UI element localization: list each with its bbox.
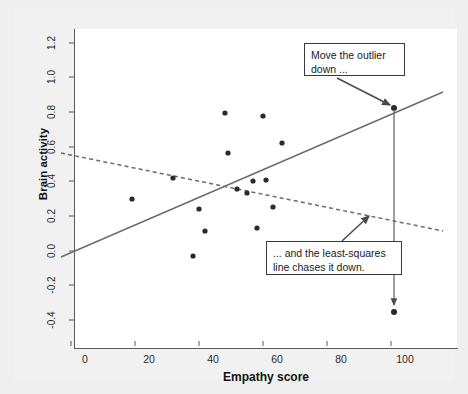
data-point: [129, 196, 134, 201]
regression-line-dashed: [61, 153, 443, 231]
data-point: [234, 186, 239, 191]
annotation-line-chases: ... and the least-squares line chases it…: [266, 241, 402, 275]
x-tick-marks: [71, 341, 391, 346]
annotation-line: Move the outlier: [311, 48, 398, 62]
data-point: [254, 225, 259, 230]
data-point: [279, 140, 284, 145]
callout-chases-arrow: [342, 216, 369, 241]
y-tick-marks: [69, 43, 74, 320]
data-point-outlier-low: [391, 309, 397, 315]
data-point: [225, 150, 230, 155]
data-point: [170, 175, 175, 180]
data-point: [263, 177, 268, 182]
data-point: [202, 228, 207, 233]
data-point: [250, 178, 255, 183]
data-point: [222, 110, 227, 115]
data-point: [270, 204, 275, 209]
data-point: [190, 253, 195, 258]
data-point: [196, 206, 201, 211]
callout-move-arrow: [337, 78, 390, 105]
annotation-line: line chases it down.: [273, 260, 395, 274]
annotation-move-outlier: Move the outlier down ...: [304, 43, 405, 76]
annotation-line: ... and the least-squares: [273, 246, 395, 260]
regression-line-solid: [61, 92, 443, 257]
annotation-line: down ...: [311, 62, 398, 76]
data-point: [244, 190, 249, 195]
data-point: [260, 113, 265, 118]
chart-screenshot: Brain activity 1.2 1.0 0.8 0.6 0.4 0.2 0…: [0, 0, 468, 394]
